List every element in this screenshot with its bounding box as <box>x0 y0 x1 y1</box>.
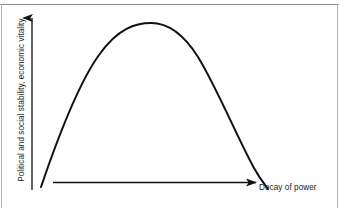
plot-area <box>0 0 339 208</box>
x-axis-label: Decay of power <box>259 184 317 192</box>
inverted-u-curve <box>41 23 268 189</box>
figure-container: Political and social stability, economic… <box>0 0 339 208</box>
y-axis-label: Political and social stability, economic… <box>18 10 26 190</box>
